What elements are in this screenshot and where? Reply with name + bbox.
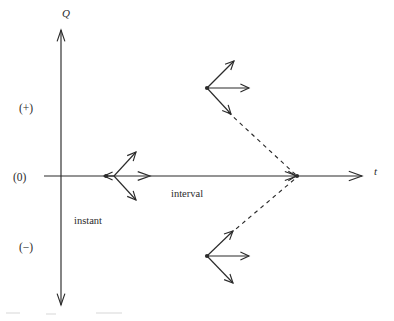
positive-region-label: (+)	[19, 103, 33, 115]
diagram-canvas: Q t (+) (0) (−) instant interval	[0, 0, 394, 321]
instant-node-dot	[104, 174, 108, 178]
lower-node-dot	[205, 254, 209, 258]
zero-region-label: (0)	[13, 172, 26, 184]
upper-arrow-down-right-shaft	[207, 88, 231, 114]
scan-artifact	[6, 312, 20, 314]
lower-arrow-down-right-shaft	[207, 256, 233, 283]
negative-region-label: (−)	[19, 242, 33, 254]
q-axis-label: Q	[62, 8, 70, 19]
lower-dashed-connector	[230, 178, 296, 234]
lower-arrow-up-right-shaft	[207, 231, 233, 256]
scan-artifact	[96, 312, 122, 314]
t-axis-label: t	[374, 166, 377, 177]
instant-label: instant	[74, 216, 102, 227]
instant-arrow-up-right-shaft	[114, 152, 136, 176]
scan-artifact	[46, 313, 56, 315]
upper-arrow-up-right-shaft	[207, 61, 234, 88]
upper-dashed-connector	[228, 112, 296, 175]
instant-arrow-down-right-shaft	[114, 176, 136, 200]
upper-node-dot	[205, 86, 209, 90]
diagram-svg	[0, 0, 394, 321]
interval-label: interval	[171, 189, 203, 200]
